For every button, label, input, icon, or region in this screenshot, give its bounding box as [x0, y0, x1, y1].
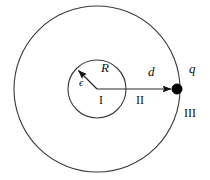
radius-label: R	[101, 61, 109, 74]
point-charge-dot	[172, 84, 182, 94]
permittivity-label: ϵ	[79, 77, 83, 88]
region-iii-label: III	[184, 107, 196, 119]
region-ii-label: II	[136, 94, 144, 106]
distance-label: d	[148, 65, 155, 78]
figure-canvas: R ϵ I d II q III	[0, 0, 210, 180]
charge-label: q	[189, 62, 196, 75]
diagram-svg	[0, 0, 210, 180]
region-i-label: I	[99, 94, 103, 106]
